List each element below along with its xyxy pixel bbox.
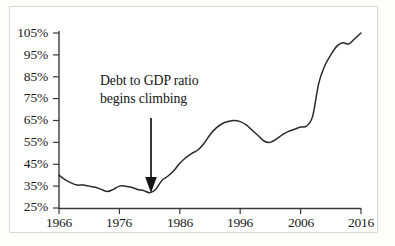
debt-climb-annotation: Debt to GDP ratio begins climbing <box>100 72 199 107</box>
chart-plot-area <box>0 0 395 246</box>
y-tick-label-25: 25% <box>0 200 48 214</box>
y-tick-label-45: 45% <box>0 157 48 171</box>
y-tick-label-35: 35% <box>0 179 48 193</box>
y-axis-ticks <box>53 33 59 208</box>
y-tick-label-85: 85% <box>0 70 48 84</box>
y-tick-label-55: 55% <box>0 135 48 149</box>
annotation-line-1: Debt to GDP ratio <box>100 72 199 90</box>
annotation-arrow-icon <box>145 118 157 193</box>
chart-figure: 105% 95% 85% 75% 65% 55% 45% 35% 25% 196… <box>0 0 395 246</box>
annotation-line-2: begins climbing <box>100 90 199 108</box>
x-tick-label-1976: 1976 <box>91 216 147 230</box>
y-tick-label-75: 75% <box>0 91 48 105</box>
x-tick-label-1986: 1986 <box>152 216 208 230</box>
x-tick-label-1966: 1966 <box>31 216 87 230</box>
y-tick-label-105: 105% <box>0 26 48 40</box>
x-tick-label-1996: 1996 <box>212 216 268 230</box>
y-tick-label-95: 95% <box>0 48 48 62</box>
y-tick-label-65: 65% <box>0 113 48 127</box>
x-tick-label-2016: 2016 <box>333 216 389 230</box>
x-tick-label-2006: 2006 <box>273 216 329 230</box>
debt-to-gdp-line <box>59 33 361 193</box>
